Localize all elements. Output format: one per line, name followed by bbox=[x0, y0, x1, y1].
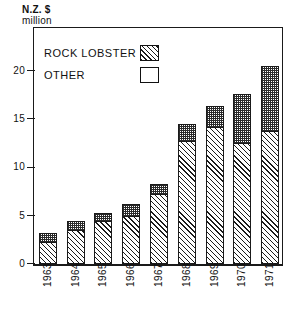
x-axis: 196319641965196619671968196919701971 bbox=[0, 0, 295, 311]
x-axis-tick-label-1963: 1963 bbox=[43, 258, 53, 292]
x-axis-tick-label-1970: 1970 bbox=[237, 258, 247, 292]
x-axis-tick-label-1969: 1969 bbox=[210, 258, 220, 292]
x-axis-tick-label-1968: 1968 bbox=[182, 258, 192, 292]
chart-figure: N.Z. $ million 05101520 ROCK LOBSTER OTH… bbox=[0, 0, 295, 311]
x-axis-tick-label-1966: 1966 bbox=[126, 258, 136, 292]
x-axis-tick-label-1971: 1971 bbox=[265, 258, 275, 292]
x-axis-tick-label-1964: 1964 bbox=[71, 258, 81, 292]
x-axis-tick-label-1967: 1967 bbox=[154, 258, 164, 292]
x-axis-tick-label-1965: 1965 bbox=[98, 258, 108, 292]
